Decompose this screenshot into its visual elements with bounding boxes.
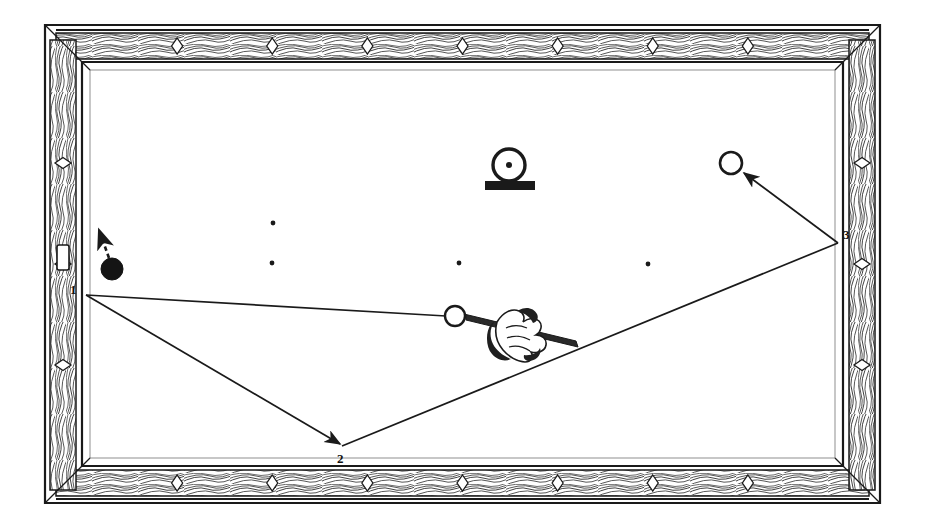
cushion-label-2: 2 bbox=[337, 452, 344, 465]
diamond-markers bbox=[55, 38, 870, 491]
table-frame bbox=[45, 25, 880, 503]
table-spot bbox=[271, 221, 276, 226]
target-ball bbox=[720, 152, 742, 174]
billiards-diagram: 1 2 3 bbox=[0, 0, 925, 528]
ball-on-stand-marker bbox=[485, 149, 535, 190]
black-ball-group bbox=[99, 230, 123, 280]
table-spot bbox=[270, 261, 275, 266]
cue-stick-and-hand bbox=[466, 308, 578, 362]
left-rail-sight-plate bbox=[57, 245, 69, 270]
frame-outline bbox=[45, 25, 880, 503]
diagram-canvas bbox=[0, 0, 925, 528]
black-ball-motion-arrow bbox=[99, 230, 109, 258]
black-ball bbox=[101, 258, 123, 280]
cushion-label-1: 1 bbox=[70, 283, 77, 296]
cushion-label-3: 3 bbox=[843, 228, 850, 241]
bridge-hand-icon bbox=[487, 308, 546, 362]
cushion-bevel bbox=[82, 62, 843, 466]
cue-ball bbox=[445, 306, 465, 326]
table-spots bbox=[270, 221, 651, 267]
table-spot bbox=[457, 261, 462, 266]
table-spot bbox=[646, 262, 651, 267]
frame-mitre-joints bbox=[45, 25, 880, 503]
